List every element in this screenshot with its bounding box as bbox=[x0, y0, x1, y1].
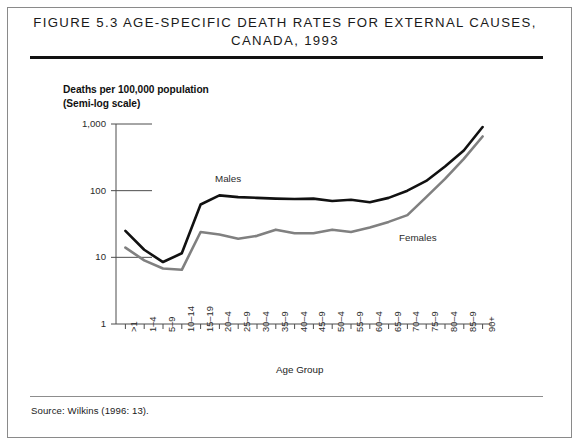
figure-title-line-2: Canada, 1993 bbox=[30, 32, 540, 50]
figure-root: Figure 5.3 Age-Specific Death Rates for … bbox=[0, 0, 579, 445]
figure-border bbox=[7, 7, 572, 438]
title-divider-rule bbox=[30, 56, 543, 59]
source-note: Source: Wilkins (1996: 13). bbox=[31, 405, 149, 416]
source-divider-rule bbox=[30, 396, 543, 397]
figure-title-line-1: Figure 5.3 Age-Specific Death Rates for … bbox=[30, 14, 540, 32]
figure-title: Figure 5.3 Age-Specific Death Rates for … bbox=[30, 14, 540, 50]
